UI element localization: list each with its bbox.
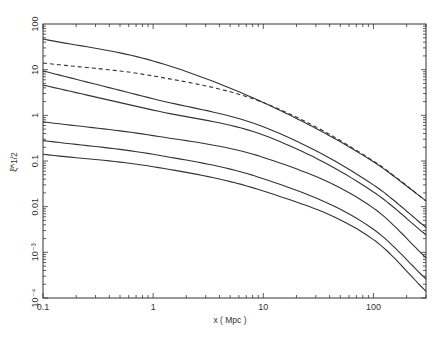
y-tick-label: 1 <box>30 113 40 118</box>
y-tick-label: 10⁻⁴ <box>30 288 40 307</box>
x-axis-title: x ( Mpc ) <box>213 315 246 325</box>
y-tick-label: 0.1 <box>30 155 40 168</box>
x-tick-label: 100 <box>366 302 381 312</box>
axis-ticks <box>43 24 426 298</box>
x-tick-label: 10 <box>258 302 268 312</box>
curve-dashed-line <box>43 63 426 201</box>
y-tick-label: 0.01 <box>30 198 40 216</box>
y-axis-title: ξ̄^1/2 <box>9 152 19 172</box>
plot-frame <box>43 24 426 298</box>
plot-lines <box>43 39 426 291</box>
y-tick-label: 100 <box>30 16 40 31</box>
x-tick-label: 1 <box>151 302 156 312</box>
y-tick-label: 10⁻³ <box>30 243 40 261</box>
curve-5-line <box>43 141 426 279</box>
y-tick-label: 10 <box>30 65 40 75</box>
curve-6-line <box>43 154 426 291</box>
curve-1-line <box>43 39 426 201</box>
y-axis-tick-labels: 1001010.10.0110⁻³10⁻⁴ <box>30 16 40 307</box>
x-axis-tick-labels: 0.1110100 <box>37 302 381 312</box>
curve-4-line <box>43 122 426 258</box>
chart: 0.1110100 1001010.10.0110⁻³10⁻⁴ x ( Mpc … <box>0 0 445 340</box>
